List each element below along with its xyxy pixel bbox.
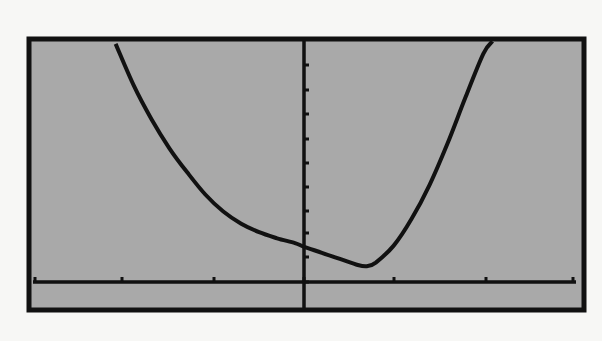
screen-background [29, 39, 584, 310]
calculator-graph-screen [0, 0, 602, 341]
